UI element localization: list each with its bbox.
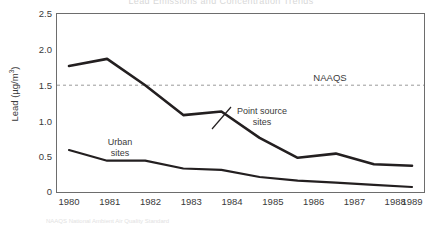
x-tick-1985: 1985 (250, 196, 296, 207)
annotation-point-source-sites: Point source sites (229, 106, 295, 128)
annotation-naaqs: NAAQS (300, 72, 360, 83)
x-tick-1980: 1980 (46, 196, 92, 207)
x-tick-1984: 1984 (209, 196, 255, 207)
x-tick-1983: 1983 (168, 196, 214, 207)
annotation-urban-sites: Urban sites (96, 137, 144, 159)
figure-caption: NAAQS National Ambient Air Quality Stand… (46, 218, 426, 225)
x-tick-1987: 1987 (331, 196, 377, 207)
annotation-point-source-line1: Point source (237, 106, 287, 116)
lead-concentration-trend-chart: Lead Emissions and Concentration Trends … (0, 0, 442, 225)
x-tick-1989: 1989 (389, 196, 435, 207)
plot-frame (57, 14, 425, 193)
annotation-point-source-line2: sites (253, 117, 272, 127)
chart-canvas (0, 0, 442, 225)
annotation-urban-line2: sites (111, 148, 130, 158)
x-tick-1982: 1982 (128, 196, 174, 207)
annotation-urban-line1: Urban (108, 137, 133, 147)
x-tick-1986: 1986 (291, 196, 337, 207)
x-tick-1981: 1981 (87, 196, 133, 207)
